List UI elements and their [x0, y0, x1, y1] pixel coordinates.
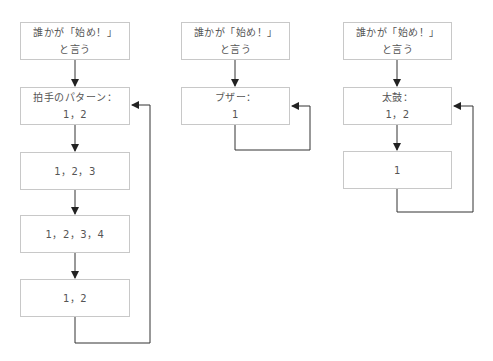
box-text: 誰かが「始め！」: [356, 24, 440, 41]
box-text: 1: [232, 106, 239, 123]
box-text: 1，2: [385, 106, 409, 123]
box-text: 1，2，3: [54, 163, 96, 180]
box-text: と言う: [220, 41, 252, 58]
buzzer-box: ブザー： 1: [181, 87, 290, 125]
box-text: 1，2: [63, 290, 87, 307]
box-text: と言う: [59, 41, 91, 58]
box-text: 1，2: [63, 106, 87, 123]
box-text: 太鼓：: [382, 89, 414, 106]
box-text: 1: [394, 162, 401, 179]
box-text: 拍手のパターン：: [33, 89, 117, 106]
clap-pattern-box: 拍手のパターン： 1，2: [20, 87, 130, 125]
drum-box: 太鼓： 1，2: [343, 87, 452, 125]
box-text: 1，2，3，4: [46, 226, 105, 243]
pattern-box: 1，2: [20, 279, 130, 317]
box-text: と言う: [382, 41, 414, 58]
pattern-box: 1，2，3，4: [20, 215, 130, 253]
start-box: 誰かが「始め！」 と言う: [20, 22, 130, 60]
start-box: 誰かが「始め！」 と言う: [343, 22, 452, 60]
pattern-box: 1，2，3: [20, 152, 130, 190]
box-text: 誰かが「始め！」: [33, 24, 117, 41]
pattern-box: 1: [343, 151, 452, 189]
start-box: 誰かが「始め！」 と言う: [181, 22, 290, 60]
box-text: 誰かが「始め！」: [194, 24, 278, 41]
box-text: ブザー：: [215, 89, 257, 106]
